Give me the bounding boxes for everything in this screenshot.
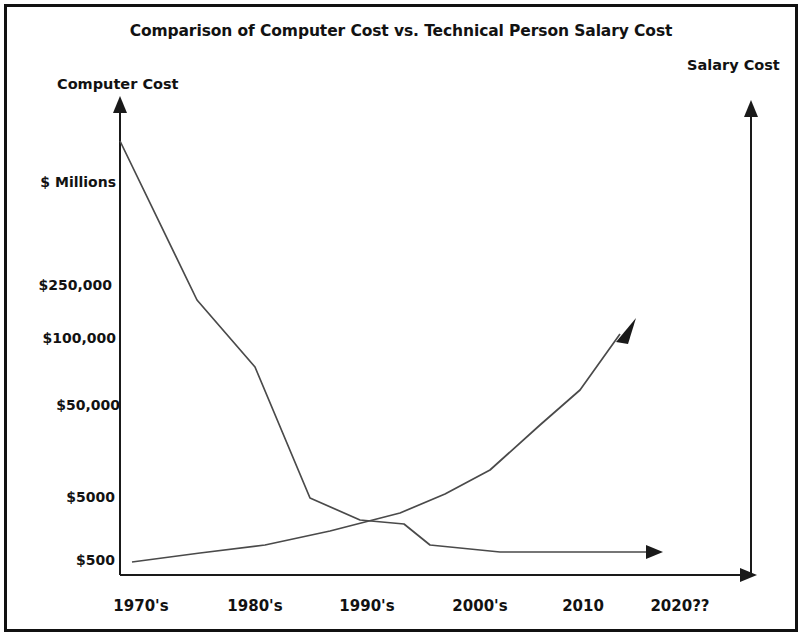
computer-cost-arrowhead <box>646 545 663 559</box>
left-y-axis-arrowhead <box>113 96 127 113</box>
right-y-axis-arrowhead <box>744 100 758 117</box>
series-salary-cost <box>132 318 636 562</box>
x-axis <box>120 568 757 582</box>
x-axis-arrowhead <box>740 568 757 582</box>
chart-plot-area <box>0 0 802 636</box>
left-y-axis <box>113 96 127 575</box>
chart-page: Comparison of Computer Cost vs. Technica… <box>0 0 802 636</box>
series-computer-cost <box>120 141 663 559</box>
right-y-axis <box>744 100 758 575</box>
salary-cost-arrowhead <box>616 318 636 344</box>
